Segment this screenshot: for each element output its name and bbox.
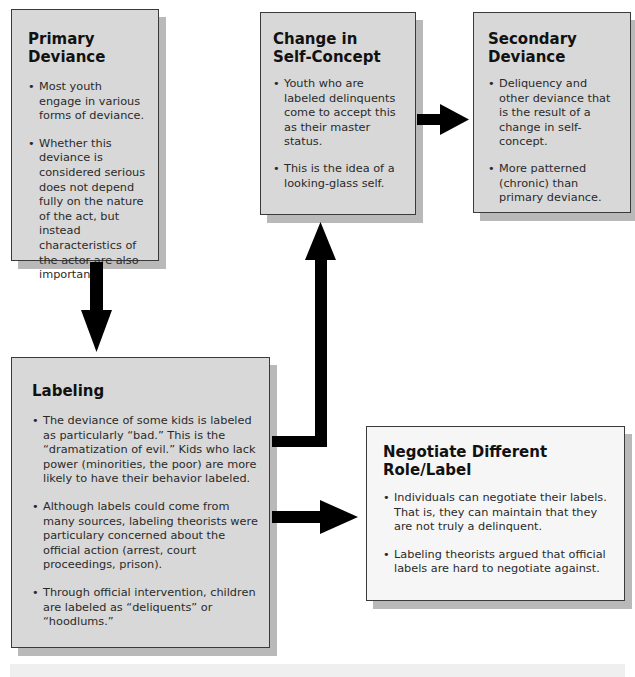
arrow-labeling-to-change xyxy=(272,222,336,447)
arrow-change-to-secondary xyxy=(417,104,469,135)
arrow-primary-to-labeling xyxy=(81,262,112,352)
bottom-band xyxy=(10,664,625,677)
arrow-labeling-to-negotiate xyxy=(272,500,358,534)
arrow-down-icon xyxy=(0,0,635,677)
